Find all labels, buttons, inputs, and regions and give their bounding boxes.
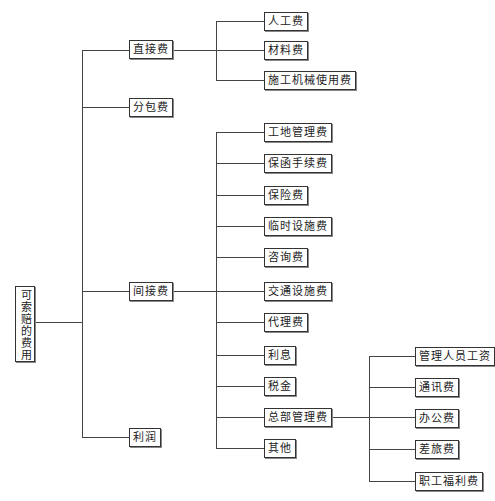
node-tax: 税金 (264, 377, 296, 396)
node-subcontract-cost: 分包费 (129, 98, 173, 117)
root-node-claimable-costs: 可索赔的费用 (15, 286, 35, 362)
node-agency-fee: 代理费 (264, 313, 308, 332)
node-office-fee: 办公费 (415, 409, 459, 428)
node-labor-cost: 人工费 (264, 12, 308, 31)
node-management-staff-salary: 管理人员工资 (415, 347, 495, 366)
node-other: 其他 (264, 439, 296, 458)
node-staff-welfare-fee: 职工福利费 (415, 472, 483, 491)
node-indirect-cost: 间接费 (129, 282, 173, 301)
node-profit: 利润 (129, 428, 161, 447)
node-guarantee-fee: 保函手续费 (264, 154, 332, 173)
node-consulting-fee: 咨询费 (264, 248, 308, 267)
node-material-cost: 材料费 (264, 41, 308, 60)
node-temporary-facilities-fee: 临时设施费 (264, 217, 332, 236)
node-headquarters-management-fee: 总部管理费 (264, 408, 332, 427)
node-site-management-fee: 工地管理费 (264, 123, 332, 142)
node-communication-fee: 通讯费 (415, 378, 459, 397)
node-machinery-cost: 施工机械使用费 (264, 71, 356, 90)
node-interest: 利息 (264, 346, 296, 365)
node-insurance-fee: 保险费 (264, 186, 308, 205)
node-travel-fee: 差旅费 (415, 440, 459, 459)
node-transport-facilities-fee: 交通设施费 (264, 282, 332, 301)
node-direct-cost: 直接费 (129, 40, 173, 59)
